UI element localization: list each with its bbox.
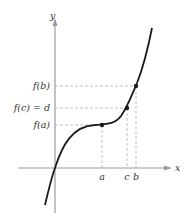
label-fc-equals-d: f(c) = d [13,102,50,113]
x-axis-label: x [175,162,181,173]
point-c [125,106,129,110]
label-fa: f(a) [32,119,50,130]
y-axis-label: y [49,10,56,21]
label-a: a [99,171,105,182]
label-fb: f(b) [32,80,50,91]
label-c: c [124,171,130,182]
guide-lines [55,86,136,168]
point-b [134,84,138,88]
ivt-diagram: y x f(b) f(c) = d f(a) a c b [0,0,191,220]
label-b: b [133,171,139,182]
x-axis-arrow-icon [164,166,172,171]
point-a [100,123,104,127]
